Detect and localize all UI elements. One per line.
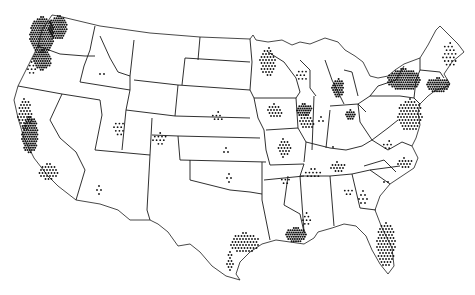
state-boundaries	[14, 15, 464, 280]
us-dot-map	[0, 0, 475, 295]
dot-cluster	[332, 146, 334, 148]
dot-cluster	[29, 16, 54, 53]
us-outline	[14, 15, 464, 280]
